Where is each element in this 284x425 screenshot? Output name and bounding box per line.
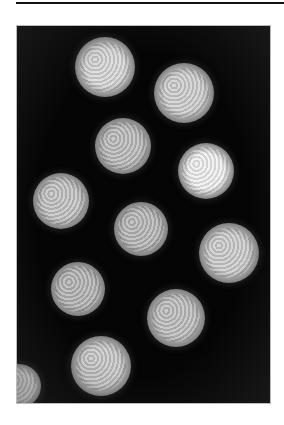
virus-particle xyxy=(114,202,168,256)
virus-particle xyxy=(51,262,105,316)
capsid-texture xyxy=(76,341,126,391)
virus-particle xyxy=(147,289,205,347)
capsid-texture xyxy=(118,206,163,251)
virus-particle xyxy=(199,223,259,283)
virus-particle xyxy=(16,364,41,404)
capsid-texture xyxy=(159,68,209,118)
virus-particle xyxy=(154,63,214,123)
virus-particle xyxy=(33,173,89,229)
capsid-texture xyxy=(99,122,146,169)
virus-particle xyxy=(178,143,234,199)
capsid-texture xyxy=(80,42,130,92)
capsid-texture xyxy=(152,294,201,343)
capsid-texture xyxy=(204,228,254,278)
virus-particle xyxy=(75,37,135,97)
capsid-texture xyxy=(182,147,229,194)
micrograph-image xyxy=(16,25,271,404)
virus-particle xyxy=(71,336,131,396)
capsid-texture xyxy=(16,368,37,404)
top-rule xyxy=(16,2,284,4)
capsid-texture xyxy=(37,177,84,224)
capsid-texture xyxy=(55,266,100,311)
virus-particle xyxy=(95,118,151,174)
